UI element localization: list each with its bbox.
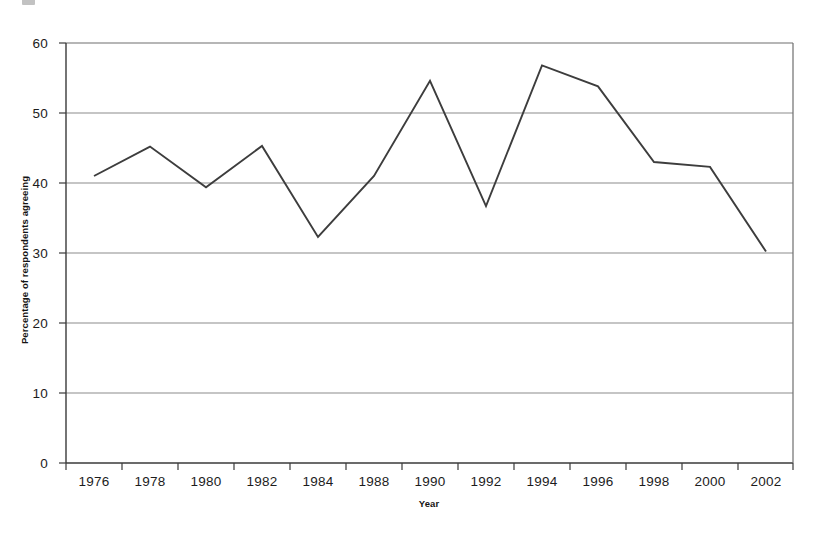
x-tick-label-1990: 1990 <box>415 474 446 489</box>
x-tick-label-1984: 1984 <box>303 474 334 489</box>
line-chart: 0 10 20 30 40 50 60 1976 1978 1980 1982 … <box>0 0 813 544</box>
x-tick-marks <box>66 463 793 470</box>
y-tick-label-0: 0 <box>10 456 48 471</box>
data-series-line <box>94 65 766 251</box>
x-tick-label-1996: 1996 <box>583 474 614 489</box>
y-tick-label-50: 50 <box>10 106 48 121</box>
x-tick-label-2002: 2002 <box>751 474 782 489</box>
y-tick-label-10: 10 <box>10 386 48 401</box>
x-tick-label-1978: 1978 <box>135 474 166 489</box>
x-tick-label-1980: 1980 <box>191 474 222 489</box>
x-tick-label-1992: 1992 <box>471 474 502 489</box>
x-tick-label-1982: 1982 <box>247 474 278 489</box>
x-tick-label-2000: 2000 <box>695 474 726 489</box>
plot-area <box>0 0 813 544</box>
x-tick-label-1998: 1998 <box>639 474 670 489</box>
y-tick-marks <box>59 43 66 463</box>
x-tick-label-1976: 1976 <box>79 474 110 489</box>
y-tick-label-60: 60 <box>10 36 48 51</box>
y-axis-title: Percentage of respondents agreeing <box>19 176 30 344</box>
gridlines <box>66 113 793 393</box>
x-tick-label-1994: 1994 <box>527 474 558 489</box>
x-tick-label-1988: 1988 <box>359 474 390 489</box>
x-axis-title: Year <box>419 498 439 509</box>
